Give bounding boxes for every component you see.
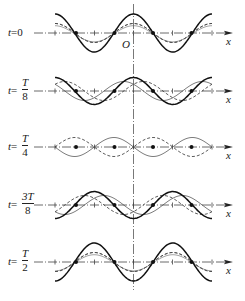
node-dot — [113, 203, 117, 207]
node-dot — [151, 145, 155, 149]
time-fraction: 3T8 — [22, 191, 34, 216]
node-dot — [151, 203, 155, 207]
x-axis-label: x — [226, 93, 231, 105]
node-dot — [113, 31, 117, 35]
node-dot — [74, 31, 78, 35]
node-dot — [190, 89, 194, 93]
time-fraction: T8 — [22, 77, 28, 102]
time-fraction: T2 — [22, 248, 28, 273]
x-axis-label: x — [226, 149, 231, 161]
node-dot — [74, 145, 78, 149]
node-dot — [74, 89, 78, 93]
node-dot — [190, 31, 194, 35]
node-dot — [113, 260, 117, 264]
node-dot — [190, 145, 194, 149]
node-dot — [190, 203, 194, 207]
node-dot — [74, 203, 78, 207]
node-dot — [190, 260, 194, 264]
x-axis-label: x — [226, 207, 231, 219]
node-dot — [151, 31, 155, 35]
x-axis-label: x — [226, 35, 231, 47]
node-dot — [151, 89, 155, 93]
origin-label: O — [122, 38, 130, 50]
node-dot — [113, 145, 117, 149]
time-label-4: t= — [8, 256, 17, 267]
x-axis-label: x — [226, 264, 231, 276]
time-label-0: t=0 — [8, 27, 23, 38]
time-label-1: t= — [8, 85, 17, 96]
time-fraction: T4 — [22, 133, 28, 158]
node-dot — [113, 89, 117, 93]
time-label-3: t= — [8, 199, 17, 210]
time-label-2: t= — [8, 141, 17, 152]
node-dot — [74, 260, 78, 264]
node-dot — [151, 260, 155, 264]
